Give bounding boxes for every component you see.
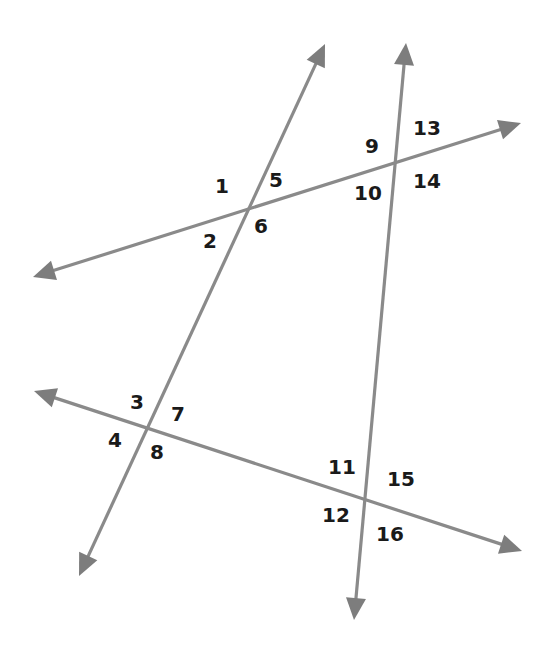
angle-label-14: 14 (413, 169, 441, 193)
transversal-right-arrow-end-icon (394, 43, 414, 66)
angle-label-13: 13 (413, 116, 441, 140)
angle-label-6: 6 (254, 214, 268, 238)
angle-labels-layer: 12345678910111213141516 (108, 116, 441, 546)
angle-label-2: 2 (203, 229, 217, 253)
angle-label-7: 7 (171, 402, 185, 426)
angle-label-5: 5 (269, 168, 283, 192)
angle-label-12: 12 (322, 503, 350, 527)
angle-label-1: 1 (215, 174, 229, 198)
angle-diagram: 12345678910111213141516 (0, 0, 551, 653)
line-lower-line (51, 397, 505, 546)
angle-label-15: 15 (387, 467, 415, 491)
angle-label-11: 11 (328, 455, 356, 479)
angle-label-8: 8 (150, 440, 164, 464)
angle-label-10: 10 (354, 181, 382, 205)
angle-label-4: 4 (108, 428, 122, 452)
line-lower-arrow-end-icon (498, 535, 522, 554)
transversal-left-line (87, 60, 318, 559)
line-upper-arrow-start-icon (33, 261, 57, 280)
transversal-right-arrow-start-icon (346, 597, 366, 620)
line-lower-arrow-start-icon (34, 388, 58, 407)
lines-layer (50, 60, 505, 602)
arrowheads-layer (33, 43, 522, 620)
angle-label-3: 3 (130, 390, 144, 414)
angle-label-9: 9 (365, 134, 379, 158)
angle-label-16: 16 (376, 522, 404, 546)
line-upper-arrow-end-icon (497, 120, 521, 139)
